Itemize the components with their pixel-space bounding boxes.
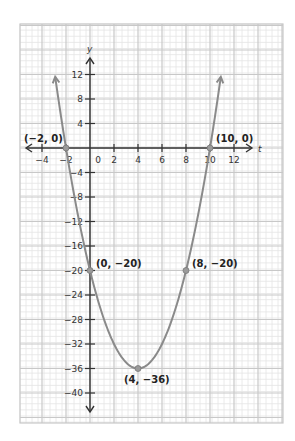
y-tick-label: 12 [72, 70, 83, 80]
data-point [63, 145, 69, 151]
data-point [207, 145, 213, 151]
y-tick-label: −24 [64, 290, 83, 300]
y-tick-label: −4 [70, 168, 84, 178]
y-tick-label: 4 [77, 119, 83, 129]
y-tick-label: −8 [70, 192, 84, 202]
t-axis-label: t [258, 144, 262, 154]
y-tick-label: −28 [64, 315, 83, 325]
point-label: (4, −36) [124, 374, 170, 385]
y-tick-label: −32 [64, 339, 83, 349]
y-tick-label: 8 [77, 94, 83, 104]
x-tick-label: 12 [228, 155, 239, 165]
data-point [183, 268, 189, 274]
x-tick-label: −4 [35, 155, 49, 165]
x-tick-label: 0 [95, 155, 101, 165]
y-axis-label: y [86, 44, 93, 54]
y-tick-label: −20 [64, 266, 83, 276]
graph-grid [20, 24, 283, 423]
y-tick-label: −16 [64, 241, 83, 251]
x-tick-label: 6 [159, 155, 165, 165]
y-tick-label: −40 [64, 388, 83, 398]
y-tick-label: −36 [64, 364, 83, 374]
point-label: (−2, 0) [24, 133, 63, 144]
point-label: (10, 0) [216, 133, 253, 144]
x-tick-label: 8 [183, 155, 189, 165]
x-tick-label: −2 [59, 155, 72, 165]
point-label: (8, −20) [192, 258, 238, 269]
x-tick-label: 10 [204, 155, 216, 165]
point-label: (0, −20) [96, 258, 142, 269]
grid-border [20, 24, 283, 423]
data-point [135, 366, 141, 372]
parabola-graph: ty −4−20246810121284−4−8−12−16−20−24−28−… [0, 0, 295, 441]
x-tick-label: 4 [135, 155, 141, 165]
x-tick-label: 2 [111, 155, 117, 165]
data-point [87, 268, 93, 274]
